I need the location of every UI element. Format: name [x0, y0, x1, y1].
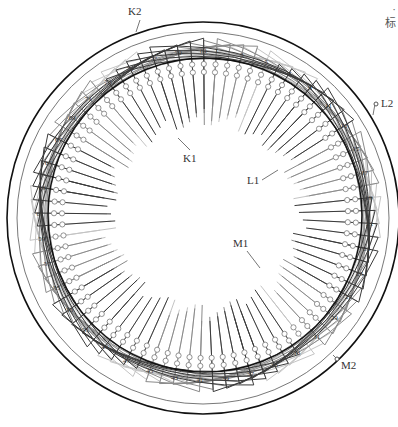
- slot-marker: [266, 349, 271, 354]
- slot-marker: [328, 145, 333, 150]
- slot-marker: [59, 165, 64, 170]
- winding-diagram: 1357911131517192123252729313335373941434…: [0, 0, 398, 427]
- coil-side: [39, 80, 136, 292]
- slot-label: 1: [215, 47, 219, 55]
- slot-marker: [236, 65, 241, 70]
- slot-label: 35: [271, 361, 279, 369]
- slot-marker: [163, 358, 168, 363]
- slot-marker: [134, 338, 139, 343]
- slot-marker: [225, 63, 230, 68]
- terminal-label-K2: K2: [128, 5, 141, 17]
- slot-label: 59: [38, 235, 46, 243]
- slot-marker: [61, 233, 66, 238]
- slot-marker: [353, 208, 358, 213]
- slot-marker: [67, 167, 72, 172]
- slot-marker: [93, 317, 98, 322]
- slot-marker: [330, 131, 335, 136]
- slot-marker: [71, 157, 76, 162]
- slot-marker: [255, 354, 260, 359]
- slot-label: 5: [264, 58, 268, 66]
- terminal-M2: M2: [333, 355, 356, 371]
- slot-marker: [212, 70, 217, 75]
- slot-marker: [351, 185, 356, 190]
- slot-marker: [61, 189, 66, 194]
- slot-marker: [176, 353, 181, 358]
- coil-side: [42, 91, 133, 303]
- slot-label: 57: [44, 260, 52, 268]
- slot-marker: [60, 222, 65, 227]
- slot-marker: [137, 85, 142, 90]
- slot-marker: [327, 283, 332, 288]
- slot-marker: [276, 344, 281, 349]
- slot-marker: [293, 102, 298, 107]
- slot-marker: [344, 231, 349, 236]
- slot-marker: [332, 273, 337, 278]
- slot-marker: [114, 90, 119, 95]
- slot-marker: [307, 310, 312, 315]
- slot-label: 55: [53, 284, 61, 292]
- slot-label: 73: [105, 78, 113, 86]
- slot-marker: [269, 77, 274, 82]
- terminal-L2: L2: [373, 97, 393, 115]
- slot-marker: [321, 306, 326, 311]
- slot-marker: [178, 63, 183, 68]
- slot-marker: [341, 176, 346, 181]
- slot-marker: [299, 318, 304, 323]
- slot-marker: [315, 112, 320, 117]
- slot-marker: [314, 301, 319, 306]
- slot-marker: [321, 292, 326, 297]
- slot-marker: [245, 76, 250, 81]
- slot-label: 9: [308, 84, 312, 92]
- slot-marker: [345, 197, 350, 202]
- coil-side: [101, 51, 318, 134]
- slot-marker: [75, 147, 80, 152]
- rotor-bore: [127, 137, 283, 293]
- slot-marker: [107, 319, 112, 324]
- slot-marker: [247, 68, 252, 73]
- terminal-K2: K2: [128, 5, 141, 32]
- slot-marker: [231, 353, 236, 358]
- slot-marker: [63, 154, 68, 159]
- slot-marker: [334, 287, 339, 292]
- slot-label: 71: [85, 95, 93, 103]
- slot-marker: [341, 152, 346, 157]
- slot-marker: [72, 289, 77, 294]
- slot-marker: [353, 197, 358, 202]
- slot-marker: [59, 211, 64, 216]
- slot-marker: [152, 355, 157, 360]
- slot-marker: [87, 128, 92, 133]
- slot-marker: [79, 285, 84, 290]
- slot-label: 7: [287, 70, 291, 78]
- slot-marker: [60, 200, 65, 205]
- slot-marker: [234, 73, 239, 78]
- slot-marker: [345, 220, 350, 225]
- slot-marker: [174, 361, 179, 366]
- slot-marker: [144, 343, 149, 348]
- slot-label: 11: [325, 102, 332, 110]
- slot-marker: [101, 111, 106, 116]
- slot-label: 31: [313, 333, 321, 341]
- slot-marker: [252, 346, 257, 351]
- slot-marker: [340, 252, 345, 257]
- slot-marker: [201, 69, 206, 74]
- slot-marker: [81, 123, 86, 128]
- slot-marker: [179, 71, 184, 76]
- slot-marker: [313, 315, 318, 320]
- slot-marker: [347, 255, 352, 260]
- slot-label: 33: [293, 349, 301, 357]
- slot-marker: [307, 104, 312, 109]
- slot-label: 81: [200, 47, 208, 55]
- slot-label: 47: [123, 357, 131, 365]
- slot-marker: [342, 242, 347, 247]
- slot-label: 79: [175, 49, 183, 57]
- slot-marker: [333, 155, 338, 160]
- terminal-label-M2: M2: [341, 359, 356, 371]
- slot-label: 37: [247, 370, 255, 378]
- slot-marker: [343, 186, 348, 191]
- slot-label: 49: [101, 343, 109, 351]
- slot-marker: [299, 96, 304, 101]
- slot-marker: [337, 165, 342, 170]
- slot-marker: [64, 178, 69, 183]
- slot-marker: [353, 220, 358, 225]
- slot-label: 27: [345, 293, 353, 301]
